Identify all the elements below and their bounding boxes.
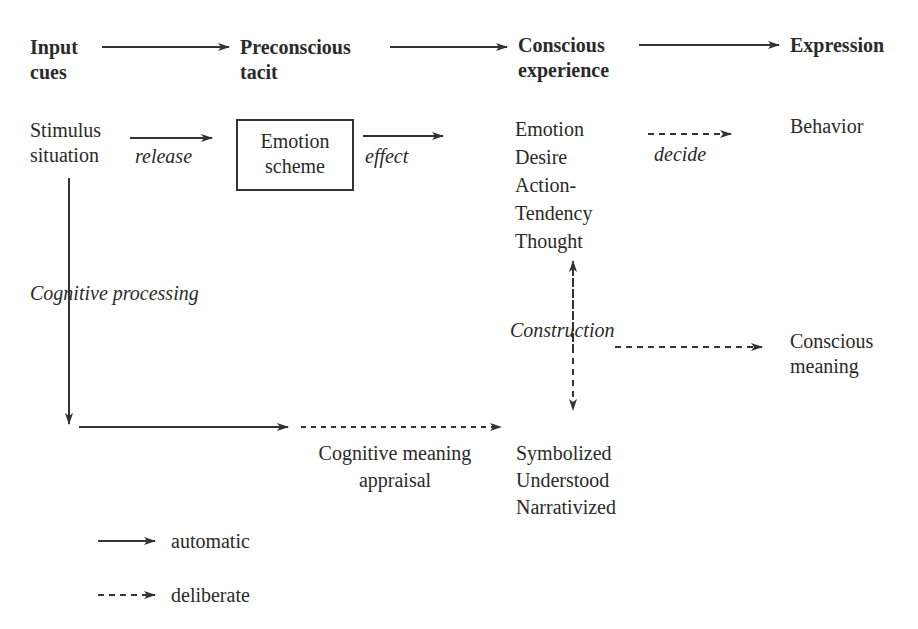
node-line: Thought xyxy=(515,227,592,255)
header-line: experience xyxy=(518,58,609,83)
header-line: tacit xyxy=(240,60,351,85)
node-line: scheme xyxy=(236,154,354,179)
node-emotion-scheme: Emotion scheme xyxy=(236,129,354,179)
node-stimulus-situation: Stimulus situation xyxy=(30,118,101,168)
node-line: Tendency xyxy=(515,199,592,227)
node-line: Emotion xyxy=(236,129,354,154)
node-line: Action- xyxy=(515,171,592,199)
header-preconscious: Preconscious tacit xyxy=(240,35,351,85)
legend-automatic: automatic xyxy=(171,529,250,554)
node-line: Narrativized xyxy=(516,494,616,521)
node-symbolized: Symbolized Understood Narrativized xyxy=(516,440,616,521)
header-expression: Expression xyxy=(790,33,884,58)
node-line: Stimulus xyxy=(30,118,101,143)
node-conscious-items: Emotion Desire Action- Tendency Thought xyxy=(515,115,592,255)
node-line: Understood xyxy=(516,467,616,494)
header-line: Expression xyxy=(790,33,884,58)
node-line: Desire xyxy=(515,143,592,171)
header-input-cues: Input cues xyxy=(30,35,78,85)
label-release: release xyxy=(135,144,192,169)
node-behavior: Behavior xyxy=(790,114,863,139)
label-effect: effect xyxy=(365,144,408,169)
header-conscious: Conscious experience xyxy=(518,33,609,83)
node-line: Cognitive meaning xyxy=(295,440,495,467)
header-line: Preconscious xyxy=(240,35,351,60)
node-line: meaning xyxy=(790,354,873,379)
node-cognitive-meaning-appraisal: Cognitive meaning appraisal xyxy=(295,440,495,494)
label-decide: decide xyxy=(654,142,706,167)
node-line: appraisal xyxy=(295,467,495,494)
node-line: situation xyxy=(30,143,101,168)
node-line: Emotion xyxy=(515,115,592,143)
legend-deliberate: deliberate xyxy=(171,583,250,608)
header-line: Conscious xyxy=(518,33,609,58)
arrow-layer xyxy=(0,0,918,629)
node-line: Conscious xyxy=(790,329,873,354)
node-conscious-meaning: Conscious meaning xyxy=(790,329,873,379)
header-line: cues xyxy=(30,60,78,85)
header-line: Input xyxy=(30,35,78,60)
label-cognitive-processing: Cognitive processing xyxy=(30,281,199,306)
node-line: Symbolized xyxy=(516,440,616,467)
label-construction: Construction xyxy=(510,318,614,343)
